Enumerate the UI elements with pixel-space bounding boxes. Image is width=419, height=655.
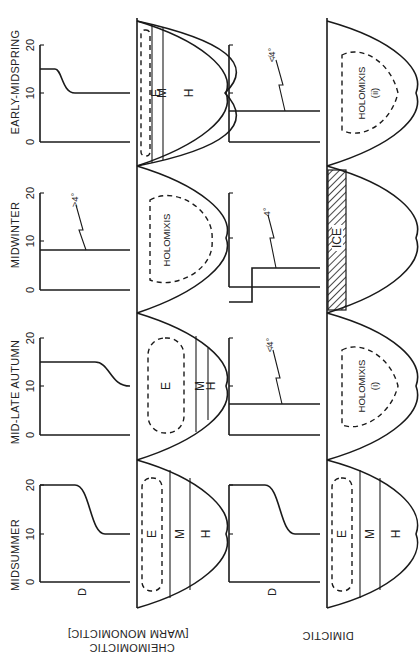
svg-text:20: 20 [24,479,36,491]
svg-text:E: E [145,530,159,538]
svg-text:HOLOMIXIS: HOLOMIXIS [161,214,172,267]
svg-text:(ii): (ii) [369,88,380,99]
panel-mid-late-autumn: 0 10 20 E M H ≮4° HOLOMIXIS (i) [24,313,418,460]
svg-text:20: 20 [24,332,36,344]
row-label-dimictic: DIMICTIC [302,630,353,642]
svg-text:0: 0 [24,579,36,585]
svg-text:ICE: ICE [330,228,344,248]
svg-text:10: 10 [24,380,36,392]
row-label-cheimomictic: CHEIMOMICTIC [89,642,174,654]
panel-midsummer: 0 10 20 D E M H D E M H [24,460,418,608]
svg-text:(i): (i) [369,382,380,390]
svg-text:10: 10 [24,235,36,247]
svg-text:M: M [155,88,169,98]
svg-text:≮4°: ≮4° [266,47,277,62]
season-label-mid-late-autumn: MID-LATE AUTUMN [9,340,21,445]
season-label-midsummer: MIDSUMMER [9,519,21,591]
svg-text:20: 20 [24,187,36,199]
svg-text:10: 10 [24,528,36,540]
svg-text:D: D [266,588,278,596]
season-label-early-midspring: EARLY-MIDSPRING [9,30,21,135]
svg-text:0: 0 [24,139,36,145]
lake-mixing-diagram: EARLY-MIDSPRING MIDWINTER MID-LATE AUTUM… [0,0,419,655]
svg-text:≮4°: ≮4° [264,337,275,352]
svg-text:D: D [76,588,88,596]
row-label-warm-monomictic: [WARM MONOMICTIC] [68,628,189,640]
svg-text:H: H [182,89,196,98]
svg-text:HOLOMIXIS: HOLOMIXIS [356,360,367,413]
svg-text:E: E [335,530,349,538]
panel-midwinter: >4° 0 10 20 HOLOMIXIS 4° ICE [24,166,418,313]
svg-text:10: 10 [24,87,36,99]
svg-text:M: M [363,529,377,539]
svg-text:0: 0 [24,287,36,293]
panel-early-midspring: 0 10 20 E M H ≮4° HOLOMIXIS (ii) [24,21,418,166]
svg-text:M: M [173,529,187,539]
svg-text:H: H [389,530,403,539]
svg-text:E: E [159,382,173,390]
svg-text:0: 0 [24,432,36,438]
svg-text:4°: 4° [261,207,272,216]
svg-text:>4°: >4° [69,192,80,207]
svg-text:20: 20 [24,39,36,51]
season-label-midwinter: MIDWINTER [9,202,21,268]
svg-text:H: H [204,382,218,391]
svg-text:HOLOMIXIS: HOLOMIXIS [356,67,367,120]
svg-text:H: H [199,530,213,539]
